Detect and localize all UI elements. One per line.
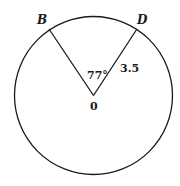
point-label-b: B	[36, 13, 47, 27]
radius-ob	[49, 29, 94, 96]
radius-length-label: 3.5	[120, 62, 139, 75]
point-label-d: D	[136, 13, 148, 27]
center-label: 0	[90, 100, 98, 113]
circle-diagram: B D 77° 3.5 0	[0, 0, 180, 186]
diagram-canvas: B D 77° 3.5 0	[0, 0, 180, 186]
angle-label: 77°	[87, 69, 108, 82]
